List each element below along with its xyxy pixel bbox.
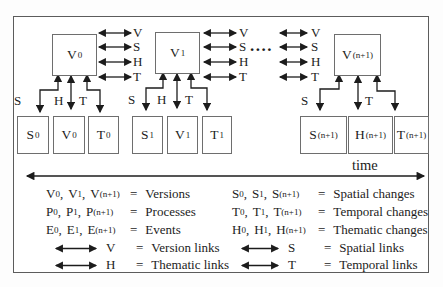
double-arrow-icon bbox=[52, 260, 100, 271]
link-letter-s: S bbox=[133, 40, 140, 53]
link-letter-v: V bbox=[133, 26, 142, 39]
equals-sign: = bbox=[324, 240, 331, 256]
equals-sign: = bbox=[130, 222, 137, 238]
legend-desc: Versions bbox=[145, 186, 190, 202]
link-symbol: T bbox=[288, 257, 296, 273]
equals-sign: = bbox=[136, 257, 143, 273]
connector-label-s: S bbox=[128, 93, 135, 106]
legend-desc: Thematic changes bbox=[333, 222, 427, 238]
version-label: V bbox=[170, 45, 180, 61]
link-letter-h: H bbox=[239, 55, 248, 68]
link-letter-h: H bbox=[311, 55, 320, 68]
link-letter-v: V bbox=[239, 26, 248, 39]
link-symbol: V bbox=[106, 240, 115, 256]
link-letter-t: T bbox=[239, 70, 247, 83]
double-arrow-icon bbox=[52, 243, 100, 254]
double-arrow-icon bbox=[238, 243, 282, 254]
double-arrow-icon bbox=[238, 260, 282, 271]
legend-row-versions: V0, V1, V(n+1) = Versions bbox=[46, 186, 190, 202]
ellipsis-dots: .... bbox=[250, 41, 273, 51]
version-box-v0: V0 bbox=[52, 34, 97, 76]
legend-row-thematic-links: H = Thematic links bbox=[46, 257, 229, 273]
legend-row-thematic-changes: H0, H1, H(n+1) = Thematic changes bbox=[232, 222, 428, 238]
link-letter-h: H bbox=[133, 55, 142, 68]
version-label: V bbox=[342, 47, 352, 63]
change-box-sn1: S(n+1) bbox=[300, 116, 347, 154]
legend-row-version-links: V = Version links bbox=[46, 240, 220, 256]
connector-label-t: T bbox=[79, 94, 87, 107]
change-box-v1: V1 bbox=[167, 116, 198, 154]
connector-label-t: T bbox=[185, 93, 193, 106]
legend-row-processes: P0, P1, P(n+1) = Processes bbox=[46, 204, 196, 220]
version-box-vn1: V(n+1) bbox=[334, 34, 381, 76]
equals-sign: = bbox=[318, 204, 325, 220]
legend-desc: Processes bbox=[145, 204, 196, 220]
legend-row-temporal-links: T = Temporal links bbox=[232, 257, 418, 273]
equals-sign: = bbox=[318, 186, 325, 202]
equals-sign: = bbox=[136, 240, 143, 256]
change-box-hn1: H(n+1) bbox=[348, 116, 393, 154]
equals-sign: = bbox=[324, 257, 331, 273]
link-symbol: H bbox=[106, 257, 115, 273]
legend-row-temporal-changes: T0, T1, T(n+1) = Temporal changes bbox=[232, 204, 428, 220]
equals-sign: = bbox=[130, 204, 137, 220]
version-box-v1: V1 bbox=[155, 32, 200, 74]
legend-desc: Events bbox=[145, 222, 180, 238]
version-label: V bbox=[67, 47, 77, 63]
change-box-t0: T0 bbox=[88, 116, 119, 154]
link-letter-v: V bbox=[311, 26, 320, 39]
link-letter-s: S bbox=[311, 40, 318, 53]
link-letter-t: T bbox=[311, 70, 319, 83]
legend-desc: Temporal changes bbox=[333, 204, 428, 220]
legend-row-events: E0, E1, E(n+1) = Events bbox=[46, 222, 181, 238]
change-box-t1: T1 bbox=[202, 116, 232, 154]
legend-desc: Spatial links bbox=[339, 240, 404, 256]
legend-row-spatial-changes: S0, S1, S(n+1) = Spatial changes bbox=[232, 186, 415, 202]
connector-label-h: H bbox=[157, 93, 166, 106]
legend-desc: Thematic links bbox=[151, 257, 229, 273]
equals-sign: = bbox=[130, 186, 137, 202]
connector-label-s: S bbox=[301, 94, 308, 107]
link-letter-s: S bbox=[239, 40, 246, 53]
change-box-tn1: T(n+1) bbox=[394, 116, 429, 154]
legend-desc: Spatial changes bbox=[333, 186, 414, 202]
change-box-v0: V0 bbox=[53, 116, 85, 154]
figure-canvas: V0 V1 V(n+1) V S H T V S H T .... V S H … bbox=[0, 0, 443, 287]
connector-label-s: S bbox=[14, 94, 21, 107]
connector-label-t: T bbox=[365, 94, 373, 107]
legend-desc: Version links bbox=[151, 240, 219, 256]
equals-sign: = bbox=[318, 222, 325, 238]
change-box-s0: S0 bbox=[17, 116, 49, 154]
legend-desc: Temporal links bbox=[339, 257, 417, 273]
legend-row-spatial-links: S = Spatial links bbox=[232, 240, 404, 256]
time-label: time bbox=[352, 157, 378, 174]
link-letter-t: T bbox=[133, 70, 141, 83]
link-symbol: S bbox=[288, 240, 295, 256]
change-box-s1: S1 bbox=[132, 116, 163, 154]
connector-label-h: H bbox=[54, 94, 63, 107]
